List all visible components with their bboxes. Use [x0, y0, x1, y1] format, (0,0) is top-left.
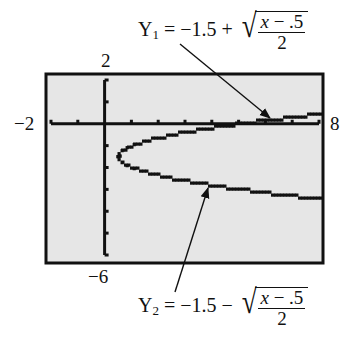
x-tick — [184, 120, 187, 124]
x-tick — [210, 120, 213, 124]
eq2-den: 2 — [277, 309, 287, 329]
ymin-label: −6 — [88, 267, 108, 286]
eq2-lhs: Y — [138, 294, 152, 317]
equation-y1: Y 1 = −1.5 + √ x − .5 2 — [138, 6, 308, 53]
xmin-label: −2 — [14, 114, 34, 133]
xmax-label: 8 — [330, 114, 340, 133]
eq2-rhs: = −1.5 − — [159, 294, 238, 317]
eq2-subscript: 2 — [152, 303, 159, 319]
y-tick — [105, 79, 109, 82]
y-tick — [105, 100, 109, 103]
sqrt-symbol: √ x − .5 2 — [240, 6, 309, 53]
x-tick — [291, 120, 294, 124]
y-tick — [105, 144, 109, 147]
eq1-rhs: = −1.5 + — [159, 18, 238, 41]
x-tick — [130, 120, 133, 124]
eq1-lhs: Y — [138, 18, 152, 41]
sqrt-symbol: √ x − .5 2 — [240, 282, 309, 329]
eq1-subscript: 1 — [152, 27, 159, 43]
screen-frame — [46, 74, 323, 263]
x-tick — [157, 120, 160, 124]
eq2-num-var: x — [260, 287, 268, 308]
x-tick — [50, 120, 53, 124]
y-tick — [105, 166, 109, 169]
eq1-den: 2 — [277, 33, 287, 53]
ymax-label: 2 — [101, 51, 111, 70]
x-tick — [318, 120, 321, 124]
eq2-num-rest: − .5 — [269, 287, 303, 308]
y-tick — [105, 254, 109, 257]
equation-y2: Y 2 = −1.5 − √ x − .5 2 — [138, 282, 308, 329]
y-tick — [105, 210, 109, 213]
x-tick — [76, 120, 79, 124]
eq1-num-rest: − .5 — [269, 11, 303, 32]
eq1-num-var: x — [260, 11, 268, 32]
y-tick — [105, 232, 109, 235]
y-tick — [105, 188, 109, 191]
graph-figure: 2 −6 −2 8 Y 1 = −1.5 + √ x − .5 2 Y 2 = … — [0, 0, 352, 353]
eq1-fraction: x − .5 2 — [255, 11, 308, 53]
eq2-fraction: x − .5 2 — [255, 287, 308, 329]
